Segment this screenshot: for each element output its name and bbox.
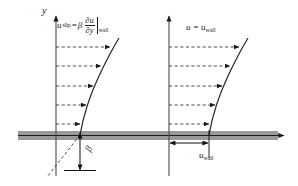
velocity-arrows-right: [169, 47, 239, 124]
panel-moving-wall: [169, 16, 248, 176]
figure-canvas: [0, 0, 298, 186]
panel-slip: [47, 16, 119, 177]
velocity-profile-curve-left: [80, 38, 119, 135]
velocity-arrows-left: [56, 47, 110, 124]
velocity-profile-curve-right: [209, 38, 248, 135]
wall-surface: [18, 131, 284, 140]
slip-boundary-condition-figure: y uslip = β ∂u ∂y wall u = uwall β uwall: [0, 0, 298, 186]
